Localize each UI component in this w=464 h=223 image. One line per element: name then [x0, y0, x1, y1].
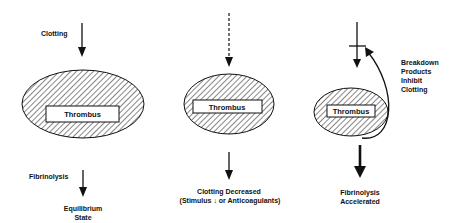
thrombus-label: Thrombus [64, 110, 101, 119]
stimulus-anticoagulants-label: (Stimulus ↓ or Anticoagulants) [180, 197, 281, 205]
clotting-decreased-label: Clotting Decreased [197, 188, 261, 196]
thrombus-label: Thrombus [209, 103, 246, 112]
inhibit-label: Inhibit [401, 77, 423, 84]
dashed-clotting-arrow [225, 13, 233, 67]
products-label: Products [401, 68, 431, 75]
thrombus-equilibrium-diagram: Clotting Thrombus Fibrinolysis Equilibri… [0, 0, 464, 223]
fibrinolysis-label: Fibrinolysis [29, 173, 68, 181]
panel-equilibrium: Clotting Thrombus Fibrinolysis Equilibri… [22, 23, 144, 221]
clotting-label: Clotting [41, 30, 67, 38]
fibrinolysis-arrow [79, 170, 87, 197]
equilibrium-label: Equilibrium [64, 205, 103, 213]
breakdown-label: Breakdown [401, 59, 439, 66]
output-arrow [225, 152, 233, 180]
panel-fibrinolysis-accelerated: Thrombus Breakdown Products Inhibit Clot… [314, 22, 439, 205]
fibrinolysis-label: Fibrinolysis [340, 189, 379, 197]
thrombus-label: Thrombus [333, 107, 370, 116]
panel-clotting-decreased: Thrombus Clotting Decreased (Stimulus ↓ … [180, 13, 281, 205]
state-label: State [74, 214, 91, 221]
thrombus-ellipse [22, 70, 144, 138]
accelerated-fibrinolysis-arrow [354, 145, 366, 178]
clotting-arrow [78, 23, 86, 57]
accelerated-label: Accelerated [340, 198, 380, 205]
inhibited-clotting-arrow [349, 22, 366, 68]
clotting-label: Clotting [401, 86, 427, 94]
